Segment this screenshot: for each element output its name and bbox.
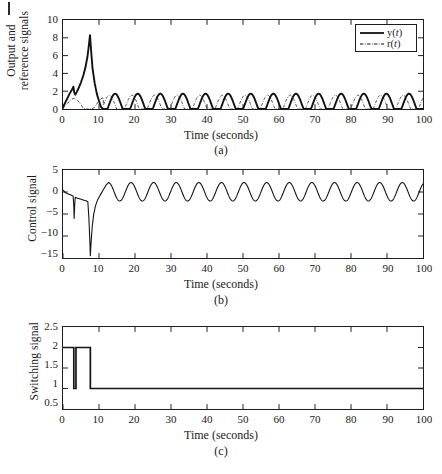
panel-a-xtick-30: 30 <box>159 113 183 125</box>
panel-b-xtick-60: 60 <box>267 262 291 274</box>
panel-c-xtick-60: 60 <box>267 413 291 425</box>
panel-a-ytick-2: 2 <box>36 85 58 97</box>
panel-a-y-axis-label: Output andreference signals <box>5 0 30 104</box>
panel-c-plot-svg <box>63 327 423 409</box>
panel-a-legend: y(t) r(t) <box>355 24 417 52</box>
legend-label-output: y(t) <box>385 27 402 38</box>
panel-c-ytick-2: 2 <box>26 339 58 351</box>
panel-c: Switching signal 2.5 2 1.5 1 0.5 <box>0 313 442 474</box>
panel-a-plot-area: y(t) r(t) <box>62 19 424 110</box>
legend-line-dashdot-icon <box>359 39 385 49</box>
panel-b-control-curve <box>63 183 423 256</box>
legend-label-reference: r(t) <box>385 38 400 49</box>
panel-b-ytick-5: 5 <box>30 163 58 175</box>
panel-c-switching-curve <box>63 348 423 389</box>
panel-a-ytick-8: 8 <box>36 31 58 43</box>
panel-c-plot-area <box>62 326 424 410</box>
panel-b: Control signal 5 0 −5 −10 −15 <box>0 158 442 313</box>
panel-a-xtick-20: 20 <box>122 113 146 125</box>
panel-a-xtick-90: 90 <box>376 113 400 125</box>
figure-container: Output andreference signals 10 8 6 4 2 0 <box>0 0 442 474</box>
panel-b-xtick-50: 50 <box>231 262 255 274</box>
panel-b-x-axis-label: Time (seconds) <box>0 277 442 292</box>
panel-b-ytick-m15: −15 <box>30 247 58 259</box>
panel-b-plot-svg <box>63 170 423 258</box>
panel-a-xtick-70: 70 <box>303 113 327 125</box>
panel-a-xtick-100: 100 <box>410 113 438 125</box>
panel-a: Output andreference signals 10 8 6 4 2 0 <box>0 0 442 158</box>
panel-b-ytick-m5: −5 <box>30 205 58 217</box>
panel-c-ytick-1: 1 <box>26 377 58 389</box>
panel-c-xtick-50: 50 <box>231 413 255 425</box>
panel-c-ytick-1p5: 1.5 <box>26 358 58 370</box>
panel-a-ytick-4: 4 <box>36 67 58 79</box>
panel-b-ytick-0: 0 <box>30 184 58 196</box>
panel-c-xtick-80: 80 <box>339 413 363 425</box>
panel-c-xtick-100: 100 <box>410 413 438 425</box>
panel-c-xtick-90: 90 <box>376 413 400 425</box>
panel-a-xtick-80: 80 <box>339 113 363 125</box>
panel-b-xtick-70: 70 <box>303 262 327 274</box>
panel-a-xtick-50: 50 <box>231 113 255 125</box>
panel-b-xtick-30: 30 <box>159 262 183 274</box>
panel-b-ytick-m10: −10 <box>30 226 58 238</box>
panel-a-xtick-40: 40 <box>195 113 219 125</box>
panel-b-xtick-10: 10 <box>86 262 110 274</box>
panel-a-ytick-6: 6 <box>36 49 58 61</box>
panel-c-xtick-70: 70 <box>303 413 327 425</box>
panel-c-caption: (c) <box>0 444 442 459</box>
legend-entry-output: y(t) <box>359 27 412 38</box>
panel-b-plot-area <box>62 169 424 259</box>
legend-line-solid-icon <box>359 28 385 38</box>
panel-c-ytick-0p5: 0.5 <box>26 396 58 408</box>
panel-c-tickmarks <box>63 327 423 409</box>
panel-c-x-axis-label: Time (seconds) <box>0 428 442 443</box>
panel-c-xtick-0: 0 <box>50 413 74 425</box>
panel-b-xtick-100: 100 <box>410 262 438 274</box>
panel-b-xtick-80: 80 <box>339 262 363 274</box>
panel-b-xtick-90: 90 <box>376 262 400 274</box>
panel-c-xtick-30: 30 <box>159 413 183 425</box>
panel-a-xtick-60: 60 <box>267 113 291 125</box>
panel-c-xtick-40: 40 <box>195 413 219 425</box>
panel-c-xtick-10: 10 <box>86 413 110 425</box>
panel-b-xtick-20: 20 <box>122 262 146 274</box>
panel-c-ytick-2p5: 2.5 <box>26 320 58 332</box>
panel-a-x-axis-label: Time (seconds) <box>0 128 442 143</box>
panel-b-caption: (b) <box>0 293 442 308</box>
panel-a-xtick-0: 0 <box>50 113 74 125</box>
panel-b-xtick-40: 40 <box>195 262 219 274</box>
panel-a-caption: (a) <box>0 143 442 158</box>
panel-c-xtick-20: 20 <box>122 413 146 425</box>
panel-a-ytick-10: 10 <box>36 13 58 25</box>
panel-a-xtick-10: 10 <box>86 113 110 125</box>
legend-entry-reference: r(t) <box>359 38 412 49</box>
panel-b-xtick-0: 0 <box>50 262 74 274</box>
